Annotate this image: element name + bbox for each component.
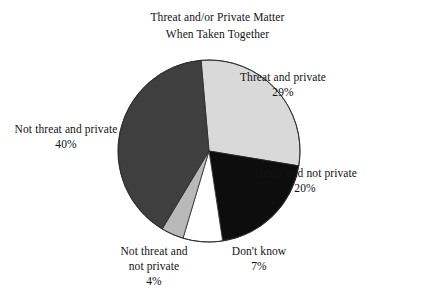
slice-label-dont-know: Don't know 7%	[232, 244, 287, 274]
slice-label-value: 7%	[232, 259, 287, 274]
slice-label-text: Threat and not private	[253, 166, 357, 181]
slice-label-threat-and-private: Threat and private 29%	[240, 70, 326, 100]
slice-label-value: 20%	[253, 181, 357, 196]
slice-label-value: 4%	[120, 274, 187, 289]
slice-label-value: 40%	[15, 137, 118, 152]
slice-label-text-line-1: Not threat and	[120, 244, 187, 259]
slice-label-threat-and-not-private: Threat and not private 20%	[253, 166, 357, 196]
slice-label-value: 29%	[240, 85, 326, 100]
slice-label-text-line-2: not private	[120, 259, 187, 274]
pie-chart: Threat and/or Private Matter When Taken …	[0, 0, 435, 303]
slice-label-text: Don't know	[232, 244, 287, 259]
slice-label-not-threat-and-not-private: Not threat and not private 4%	[120, 244, 187, 290]
slice-label-text: Not threat and private	[15, 122, 118, 137]
slice-label-text: Threat and private	[240, 70, 326, 85]
slice-label-not-threat-and-private: Not threat and private 40%	[15, 122, 118, 152]
